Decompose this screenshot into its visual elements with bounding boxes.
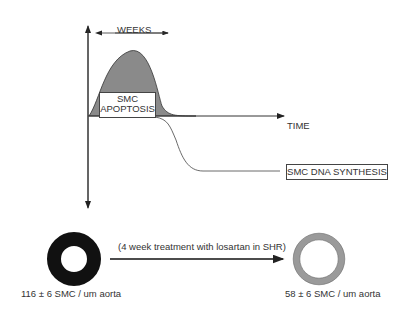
x-axis-label: TIME <box>287 120 310 131</box>
before-aorta-ring <box>54 239 94 279</box>
after-aorta-ring <box>297 237 342 282</box>
before-count-label: 116 ± 6 SMC / um aorta <box>21 288 121 299</box>
after-count-label: 58 ± 6 SMC / um aorta <box>285 288 381 299</box>
dna-synthesis-label-box: SMC DNA SYNTHESIS <box>286 164 388 180</box>
weeks-label: WEEKS <box>117 24 151 35</box>
apoptosis-label-box: SMC APOPTOSIS <box>99 92 156 118</box>
apoptosis-label-line2: APOPTOSIS <box>100 104 155 114</box>
diagram-canvas <box>0 0 406 317</box>
dna-synthesis-curve <box>155 117 280 171</box>
treatment-label: (4 week treatment with losartan in SHR) <box>118 241 286 252</box>
